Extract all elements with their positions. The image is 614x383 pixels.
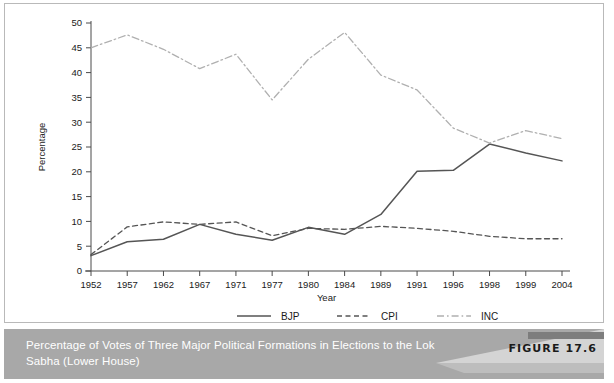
x-tick-label: 1977 bbox=[262, 279, 283, 290]
y-tick-label: 20 bbox=[71, 166, 82, 177]
x-tick-label: 1996 bbox=[443, 279, 464, 290]
x-tick-label: 2004 bbox=[551, 279, 572, 290]
legend-label-cpi: CPI bbox=[381, 311, 398, 322]
series-line-bjp bbox=[91, 144, 562, 256]
y-tick-label: 35 bbox=[71, 92, 82, 103]
x-axis-title: Year bbox=[317, 292, 336, 303]
y-tick-label: 40 bbox=[71, 67, 82, 78]
series-line-cpi bbox=[91, 222, 562, 255]
y-tick-label: 0 bbox=[77, 265, 82, 276]
y-tick-label: 25 bbox=[71, 141, 82, 152]
x-tick-label: 1957 bbox=[117, 279, 138, 290]
y-axis-title: Percentage bbox=[36, 123, 47, 172]
y-tick-label: 5 bbox=[77, 241, 82, 252]
caption-bar: Percentage of Votes of Three Major Polit… bbox=[4, 329, 604, 379]
x-tick-label: 1998 bbox=[479, 279, 500, 290]
x-tick-label: 1984 bbox=[334, 279, 355, 290]
line-chart: 0510152025303540455019521957196219671971… bbox=[5, 4, 605, 324]
figure-caption: Percentage of Votes of Three Major Polit… bbox=[26, 337, 456, 369]
y-tick-label: 15 bbox=[71, 191, 82, 202]
x-tick-label: 1967 bbox=[189, 279, 210, 290]
x-tick-label: 1971 bbox=[225, 279, 246, 290]
y-tick-label: 45 bbox=[71, 42, 82, 53]
y-tick-label: 50 bbox=[71, 17, 82, 28]
y-tick-label: 30 bbox=[71, 117, 82, 128]
legend-label-bjp: BJP bbox=[281, 311, 300, 322]
x-tick-label: 1962 bbox=[153, 279, 174, 290]
figure-page: 0510152025303540455019521957196219671971… bbox=[0, 0, 614, 383]
x-tick-label: 1952 bbox=[80, 279, 101, 290]
y-tick-label: 10 bbox=[71, 216, 82, 227]
figure-number: FIGURE 17.6 bbox=[508, 342, 597, 355]
x-tick-label: 1989 bbox=[370, 279, 391, 290]
legend-label-inc: INC bbox=[481, 311, 498, 322]
series-line-inc bbox=[91, 32, 562, 143]
x-tick-label: 1980 bbox=[298, 279, 319, 290]
x-tick-label: 1991 bbox=[407, 279, 428, 290]
x-tick-label: 1999 bbox=[515, 279, 536, 290]
chart-frame: 0510152025303540455019521957196219671971… bbox=[4, 3, 604, 323]
